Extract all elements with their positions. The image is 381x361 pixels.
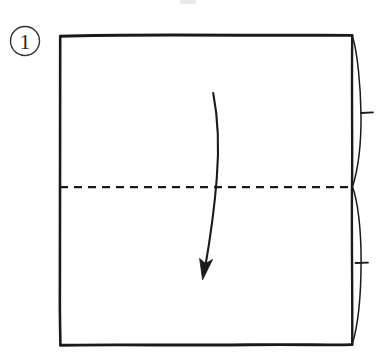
- step-number-label: 1: [20, 30, 31, 54]
- diagram-canvas: 1: [0, 0, 381, 361]
- right-paper-bulges: [352, 36, 361, 345]
- paper-square: [60, 35, 352, 345]
- origami-diagram-figure: 1: [0, 0, 381, 361]
- top-crop-smudge: [180, 0, 196, 4]
- fold-arrow-shaft: [205, 93, 218, 269]
- lower-paper-bulge: [352, 186, 361, 344]
- edge-tick-marks: [356, 112, 374, 263]
- paper-edge-top: [61, 35, 353, 36]
- circled-step-number: 1: [11, 27, 40, 56]
- upper-paper-bulge: [352, 36, 361, 188]
- paper-edge-bottom: [60, 345, 352, 346]
- paper-edge-left: [60, 36, 61, 345]
- upper-edge-tick: [361, 112, 373, 113]
